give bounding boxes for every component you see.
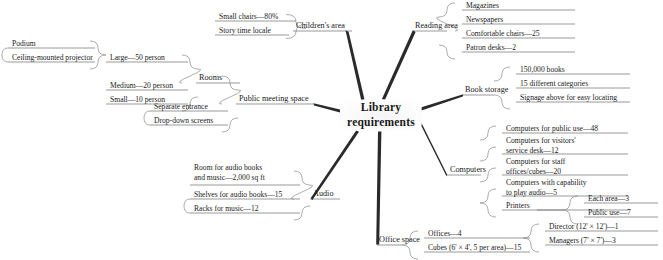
leaf-computers-visitors-desk-line1: Computers for visitors' xyxy=(506,136,626,146)
bracket-bookstorage-upper xyxy=(494,67,510,81)
leaf-printers[interactable]: Printers xyxy=(504,201,532,212)
branch-label-rooms[interactable]: Rooms xyxy=(198,73,223,83)
branch-label-office-space[interactable]: Office space xyxy=(378,235,421,245)
leaf-computers-public-use[interactable]: Computers for public use—48 xyxy=(504,124,600,135)
trunk-childrens-area xyxy=(346,30,365,100)
bracket-bookstorage-lower xyxy=(494,95,510,109)
leaf-dropdown-screens[interactable]: Drop-down screens xyxy=(152,116,215,127)
leaf-ceiling-mounted-projector[interactable]: Ceiling-mounted projector xyxy=(10,53,95,64)
leaf-computers-staff-offices-line1: Computers for staff xyxy=(506,157,626,167)
leaf-large-room[interactable]: Large—50 person xyxy=(108,53,167,64)
bracket-reading-lower xyxy=(439,45,455,59)
branch-label-book-storage[interactable]: Book storage xyxy=(464,85,509,95)
leaf-podium[interactable]: Podium xyxy=(10,39,38,50)
bracket-audio-left xyxy=(184,199,190,213)
leaf-newspapers[interactable]: Newspapers xyxy=(464,15,505,26)
leaf-signage[interactable]: Signage above for easy locating xyxy=(518,93,619,104)
bracket-pms-left xyxy=(144,111,150,125)
leaf-magazines[interactable]: Magazines xyxy=(464,1,501,12)
bracket-large-left xyxy=(2,48,8,62)
branch-label-reading-area[interactable]: Reading area xyxy=(414,21,459,31)
bracket-director-lower xyxy=(523,238,539,252)
leaf-audio-racks[interactable]: Racks for music—12 xyxy=(192,204,261,215)
bracket-computers-e xyxy=(480,203,496,217)
leaf-categories[interactable]: 15 different categories xyxy=(518,79,590,90)
bracket-computers-a xyxy=(480,126,496,140)
trunk-public-meeting-space xyxy=(314,103,340,112)
branch-label-childrens-area[interactable]: Children's area xyxy=(295,21,346,31)
leaf-cubes[interactable]: Cubes (6' × 4', 5 per area)—15 xyxy=(426,243,523,254)
leaf-audio-room[interactable]: Room for audio books and music—2,000 sq … xyxy=(192,163,306,183)
center-title-line1: Library xyxy=(361,100,401,115)
trunk-branches xyxy=(311,30,463,244)
bracket-computers-b xyxy=(480,147,496,161)
leaf-audio-shelves[interactable]: Shelves for audio books—15 xyxy=(192,190,284,201)
leaf-audio-room-line1: Room for audio books xyxy=(194,163,304,173)
center-title-line2: requirements xyxy=(347,115,415,130)
bracket-office-lower xyxy=(402,245,418,259)
leaf-managers[interactable]: Managers (7' × 7')—3 xyxy=(547,236,618,247)
leaf-audio-room-line2: and music—2,000 sq ft xyxy=(194,173,304,183)
trunk-office-space xyxy=(376,131,381,244)
leaf-printers-each-area[interactable]: Each area—3 xyxy=(586,194,631,205)
center-node[interactable]: Library requirements xyxy=(340,99,422,131)
branch-label-computers[interactable]: Computers xyxy=(449,165,487,175)
leaf-separate-entrance[interactable]: Separate entrance xyxy=(152,102,210,113)
leaf-computers-staff-offices-line2: offices/cubes—20 xyxy=(506,167,626,177)
bracket-director-upper xyxy=(523,224,539,238)
leaf-small-chairs[interactable]: Small chairs—80% xyxy=(217,12,280,23)
trunk-reading-area xyxy=(382,30,416,100)
leaf-printers-public-use[interactable]: Public use—7 xyxy=(586,208,633,219)
leaf-computers-visitors-desk-line2: service desk—12 xyxy=(506,146,626,156)
leaf-director[interactable]: Director (12' × 12')—1 xyxy=(547,222,621,233)
branch-label-audio[interactable]: Audio xyxy=(312,189,334,199)
leaf-comfortable-chairs[interactable]: Comfortable chairs—25 xyxy=(464,29,542,40)
trunk-computers xyxy=(422,123,448,177)
leaf-computers-play-audio-line1: Computers with capability xyxy=(506,178,632,188)
branch-label-public-meeting-space[interactable]: Public meeting space xyxy=(238,94,310,104)
leaf-patron-desks[interactable]: Patron desks—2 xyxy=(464,43,518,54)
mindmap-canvas: Library requirements Small chairs—80% St… xyxy=(0,0,663,260)
leaf-offices[interactable]: Offices—4 xyxy=(426,229,464,240)
leaf-medium-room[interactable]: Medium—20 person xyxy=(108,81,175,92)
trunk-book-storage xyxy=(422,94,464,110)
bracket-computers-d xyxy=(480,189,496,203)
leaf-books-count[interactable]: 150,000 books xyxy=(518,65,567,76)
leaf-computers-staff-offices[interactable]: Computers for staff offices/cubes—20 xyxy=(504,157,628,177)
leaf-computers-visitors-desk[interactable]: Computers for visitors' service desk—12 xyxy=(504,136,628,156)
leaf-story-time-locale[interactable]: Story time locale xyxy=(217,26,273,37)
